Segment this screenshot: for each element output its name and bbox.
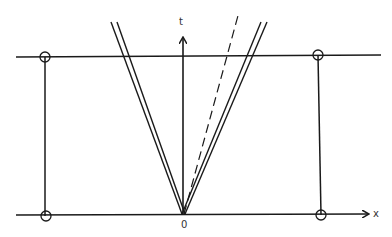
light-cone-right-outer	[185, 22, 267, 214]
top-line	[16, 55, 381, 57]
x-axis	[16, 214, 368, 215]
light-cone-left-outer	[111, 22, 182, 214]
light-cone-right-inner	[182, 22, 261, 214]
right-worldline	[318, 55, 321, 215]
origin-label: 0	[181, 219, 187, 230]
t-axis-label: t	[179, 16, 183, 27]
light-cone-left-inner	[117, 22, 185, 214]
x-axis-label: x	[373, 208, 379, 219]
left-bottom-circle-icon	[41, 211, 51, 221]
dashed-line	[184, 12, 239, 214]
spacetime-diagram: t x 0	[0, 0, 392, 237]
